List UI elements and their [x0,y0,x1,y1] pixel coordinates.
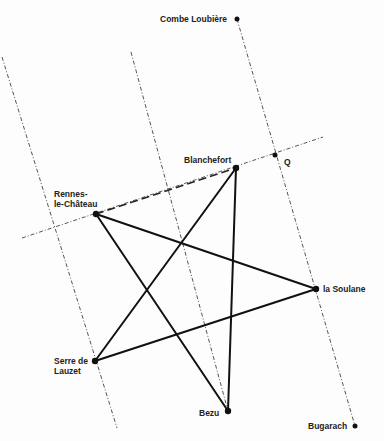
label-blanchefort: Blanchefort [184,155,231,165]
pentagram-edge-1 [95,289,316,361]
point-bugarach [353,424,358,429]
baseline [22,137,323,238]
point-blanchefort [233,165,239,171]
label-combe-loubiere: Combe Loubière [160,14,227,24]
point-rennes [93,211,99,217]
point-serre [92,358,98,364]
dashed-segment [96,168,236,214]
pentagram-edge-2 [95,168,236,361]
label-bugarach: Bugarach [308,421,347,431]
point-bezu [225,408,231,414]
pentagram-edge-0 [96,214,316,289]
ley-line-2 [237,19,355,426]
label-rennes-le-chateau: Rennes- le-Château [54,189,97,209]
label-serre-de-lauzet: Serre de Lauzet [54,356,88,376]
pentagram-diagram: Combe Loubière Blanchefort Q Rennes- le-… [0,0,384,441]
label-bezu: Bezu [199,408,219,418]
point-combe_loubiere [235,17,240,22]
label-la-soulane: la Soulane [323,284,366,294]
point-la_soulane [313,286,319,292]
pentagram-edge-3 [228,168,236,411]
label-q: Q [284,157,291,167]
point-q [273,153,278,158]
pentagram-edge-4 [96,214,228,411]
